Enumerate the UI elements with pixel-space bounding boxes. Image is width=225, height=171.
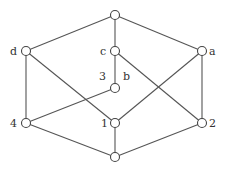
node-label-c: c: [100, 45, 106, 58]
edge-label-b: b: [123, 70, 130, 83]
node-top: [111, 11, 120, 20]
edge-label-3: 3: [99, 70, 106, 83]
node-label-d: d: [10, 45, 17, 58]
node-label-a: a: [209, 45, 216, 58]
node-c: [111, 47, 120, 56]
node-1: [111, 119, 120, 128]
node-mid: [111, 84, 120, 93]
node-bottom: [111, 153, 120, 162]
node-label-4: 4: [10, 117, 17, 130]
edge-d-1: [26, 51, 115, 123]
node-label-2: 2: [209, 117, 216, 130]
edge-top-a: [115, 15, 202, 51]
lattice-diagram: dca4123b: [0, 0, 225, 171]
node-d: [22, 47, 31, 56]
node-2: [198, 119, 207, 128]
edge-2-bottom: [115, 123, 202, 157]
diagram-svg: dca4123b: [0, 0, 225, 171]
node-4: [22, 119, 31, 128]
node-label-1: 1: [101, 117, 108, 130]
node-a: [198, 47, 207, 56]
nodes-group: [22, 11, 207, 162]
